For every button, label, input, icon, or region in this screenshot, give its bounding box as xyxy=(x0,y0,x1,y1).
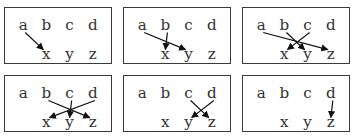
bottom-label-x: x xyxy=(280,45,289,63)
bottom-label-z: z xyxy=(327,45,335,63)
top-label-a: a xyxy=(19,16,28,34)
arrow-a-to-x xyxy=(25,32,43,49)
bottom-label-x: x xyxy=(42,45,51,63)
panel-1: abcdxyz xyxy=(4,7,112,64)
panel-graphic: abcdxyz xyxy=(243,8,349,63)
top-label-c: c xyxy=(303,16,311,34)
top-label-b: b xyxy=(161,84,171,102)
top-label-a: a xyxy=(257,16,266,34)
bottom-label-y: y xyxy=(302,45,312,63)
panel-6: abcdxyz xyxy=(242,75,350,132)
top-label-c: c xyxy=(65,16,73,34)
bottom-label-z: z xyxy=(89,45,97,63)
top-label-c: c xyxy=(184,84,192,102)
bottom-label-y: y xyxy=(183,113,193,131)
bottom-label-y: y xyxy=(64,45,74,63)
bottom-label-x: x xyxy=(42,113,51,131)
top-label-b: b xyxy=(42,16,52,34)
bottom-label-y: y xyxy=(302,113,312,131)
bottom-label-z: z xyxy=(89,113,97,131)
panel-graphic: abcdxyz xyxy=(243,76,349,131)
top-label-b: b xyxy=(280,16,290,34)
panel-graphic: abcdxyz xyxy=(5,8,111,63)
top-label-d: d xyxy=(207,84,217,102)
panel-graphic: abcdxyz xyxy=(5,76,111,131)
bottom-label-x: x xyxy=(161,113,170,131)
arrow-c-to-z xyxy=(191,100,209,117)
top-label-d: d xyxy=(88,16,98,34)
arrow-b-to-y xyxy=(286,32,304,49)
top-label-c: c xyxy=(184,16,192,34)
panel-2: abcdxyz xyxy=(123,7,231,64)
panel-5: abcdxyz xyxy=(123,75,231,132)
bottom-label-y: y xyxy=(183,45,193,63)
panel-3: abcdxyz xyxy=(242,7,350,64)
top-label-d: d xyxy=(88,84,98,102)
top-label-a: a xyxy=(138,84,147,102)
bottom-label-z: z xyxy=(208,45,216,63)
bottom-label-z: z xyxy=(208,113,216,131)
top-label-b: b xyxy=(161,16,171,34)
top-label-c: c xyxy=(65,84,73,102)
top-label-d: d xyxy=(326,16,336,34)
panel-4: abcdxyz xyxy=(4,75,112,132)
top-label-a: a xyxy=(257,84,266,102)
top-label-b: b xyxy=(280,84,290,102)
top-label-a: a xyxy=(19,84,28,102)
top-label-a: a xyxy=(138,16,147,34)
top-label-d: d xyxy=(207,16,217,34)
panel-graphic: abcdxyz xyxy=(124,76,230,131)
panel-graphic: abcdxyz xyxy=(124,8,230,63)
top-label-b: b xyxy=(42,84,52,102)
top-label-d: d xyxy=(326,84,336,102)
top-label-c: c xyxy=(303,84,311,102)
bottom-label-x: x xyxy=(280,113,289,131)
